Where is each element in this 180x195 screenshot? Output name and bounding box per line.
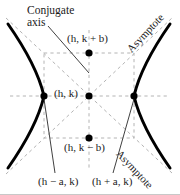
vertex-left-label: (h − a, k) [38, 176, 78, 188]
point-co-vertex-top [85, 49, 92, 56]
conjugate-axis-label-line2: axis [27, 16, 74, 28]
vertex-right-label: (h + a, k) [92, 176, 132, 188]
center-label: (h, k) [54, 88, 78, 100]
leader-line-vertex-left [44, 99, 55, 173]
conjugate-axis-label: Conjugate axis [27, 4, 74, 29]
point-vertex-right [130, 92, 137, 99]
hyperbola-figure: Conjugate axis (h, k + b) (h, k) (h, k −… [0, 0, 180, 195]
point-vertex-left [40, 92, 47, 99]
point-center [85, 92, 92, 99]
co-vertex-top-label: (h, k + b) [67, 33, 108, 45]
conjugate-axis-label-line1: Conjugate [27, 4, 74, 16]
co-vertex-bottom-label: (h, k − b) [64, 142, 105, 154]
